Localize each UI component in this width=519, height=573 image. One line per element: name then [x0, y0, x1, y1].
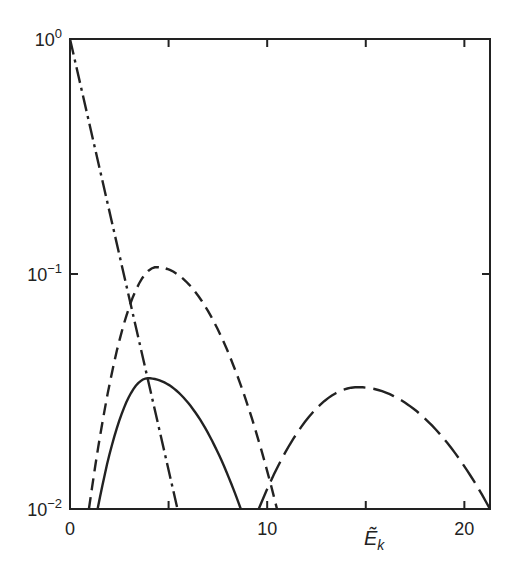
chart: 10010−110−2 01020 Ẽk	[0, 0, 519, 573]
series-dash-dot	[70, 39, 178, 509]
x-tick-label: 0	[65, 519, 75, 539]
plot-frame	[70, 39, 490, 509]
x-tick-label: 10	[257, 519, 277, 539]
x-axis-label: Ẽk	[364, 526, 385, 553]
series-dashed	[89, 267, 277, 509]
y-tick-label: 10−2	[27, 496, 62, 520]
x-tick-label: 20	[454, 519, 474, 539]
series-solid	[98, 378, 241, 509]
y-tick-label: 10−1	[27, 261, 62, 285]
y-tick-label: 100	[35, 26, 62, 50]
series-long-dash	[259, 387, 490, 509]
